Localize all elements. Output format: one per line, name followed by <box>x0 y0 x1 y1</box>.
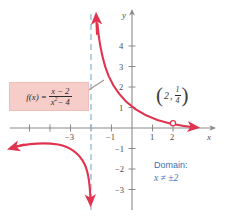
formula-fraction: x − 2 x2− 4 <box>49 87 72 107</box>
formula-denominator: x2− 4 <box>49 98 72 107</box>
y-tick-label--1: −1 <box>115 145 124 154</box>
x-tick-label-2: 2 <box>170 133 174 142</box>
formula-lhs: f(x) <box>26 92 39 102</box>
x-tick-label-1: 1 <box>150 133 154 142</box>
y-tick-label-3: 3 <box>119 63 123 72</box>
x-tick-label--3: −3 <box>65 133 74 142</box>
point-y-fraction: 1 4 <box>175 86 181 105</box>
y-axis-label: y <box>122 11 126 20</box>
denominator-rest: − 4 <box>58 97 70 107</box>
domain-label: Domain: <box>154 159 188 172</box>
point-open-paren: ( <box>156 87 163 104</box>
y-tick-label-1: 1 <box>119 104 123 113</box>
y-tick-label--3: −3 <box>115 186 124 195</box>
open-circle-hole-marker <box>170 121 175 126</box>
domain-annotation: Domain: x ≠ ±2 <box>154 159 188 185</box>
y-tick-label-4: 4 <box>119 42 123 51</box>
domain-restriction: x ≠ ±2 <box>154 172 188 185</box>
y-tick-label--2: −2 <box>115 165 124 174</box>
point-coordinate-label: ( 2, 1 4 ) <box>156 86 189 105</box>
curve-left-branch <box>13 143 91 201</box>
point-close-paren: ) <box>182 87 189 104</box>
formula-numerator: x − 2 <box>49 87 71 96</box>
point-comma: , <box>170 91 173 101</box>
x-axis-label: x <box>207 133 211 142</box>
x-tick-label--1: −1 <box>106 133 115 142</box>
point-y-numerator: 1 <box>175 86 181 94</box>
point-y-denominator: 4 <box>175 97 181 105</box>
curve-right-branch <box>96 18 194 127</box>
y-tick-label-2: 2 <box>119 83 123 92</box>
graph-figure: x y −3 −1 1 2 4 3 2 1 −1 −2 −3 f(x) = x … <box>0 0 226 222</box>
point-x-value: 2 <box>164 91 169 101</box>
formula-equals: = <box>41 92 47 102</box>
function-formula-callout: f(x) = x − 2 x2− 4 <box>9 82 89 111</box>
coordinate-plane <box>0 0 226 222</box>
